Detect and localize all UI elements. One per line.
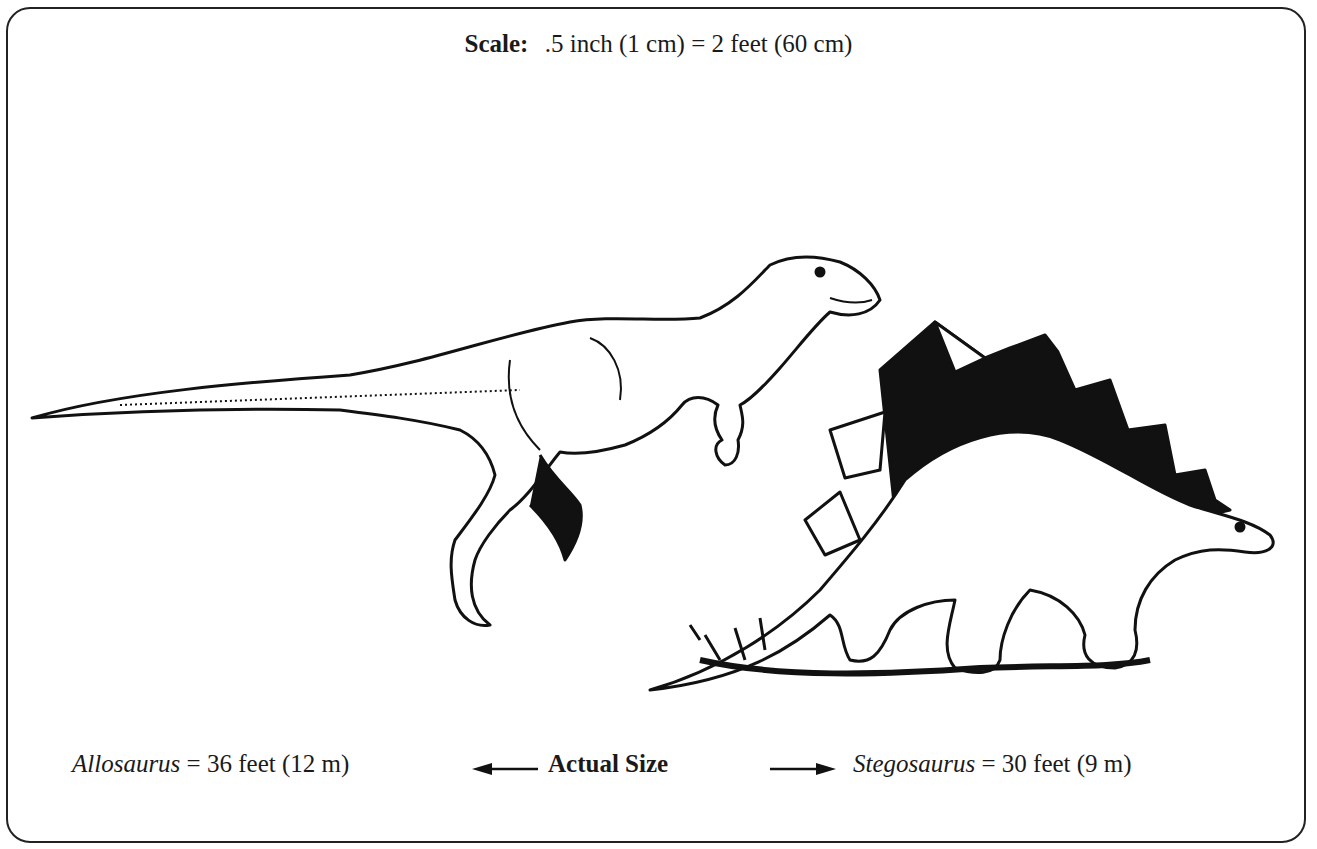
stegosaurus-name: Stegosaurus xyxy=(853,750,975,777)
stegosaurus-size: = 30 feet (9 m) xyxy=(981,750,1131,777)
allosaurus-name: Allosaurus xyxy=(72,750,180,777)
stegosaurus-caption: Stegosaurus = 30 feet (9 m) xyxy=(853,750,1132,778)
allosaurus-caption: Allosaurus = 36 feet (12 m) xyxy=(72,750,349,778)
actual-size-label: Actual Size xyxy=(548,750,668,778)
left-arrow-icon xyxy=(470,762,540,776)
dinosaur-illustration xyxy=(0,0,1317,849)
allosaurus-size: = 36 feet (12 m) xyxy=(187,750,350,777)
allosaurus-drawing xyxy=(32,257,880,625)
right-arrow-icon xyxy=(768,762,838,776)
size-legend: Allosaurus = 36 feet (12 m) Actual Size … xyxy=(0,750,1317,790)
